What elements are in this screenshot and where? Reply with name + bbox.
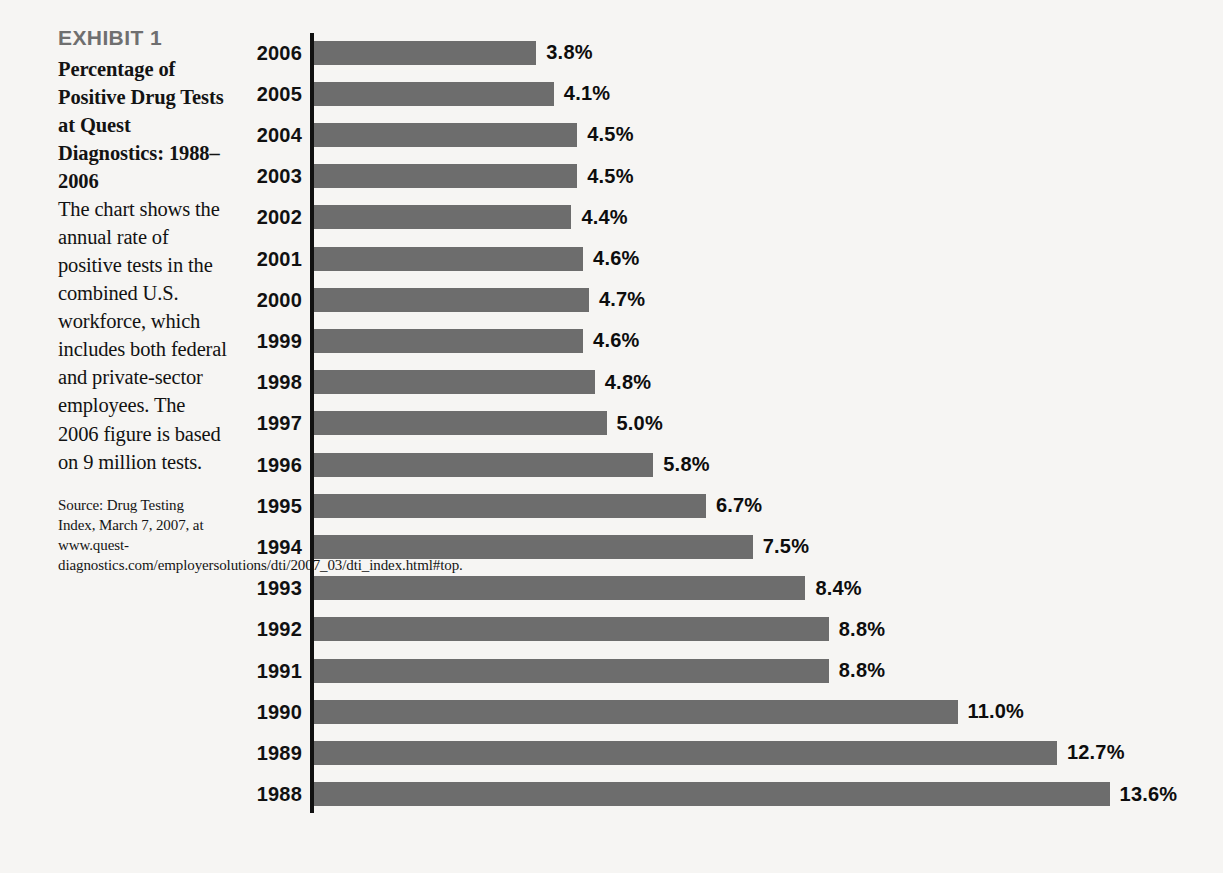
bar-year-label: 1989 <box>240 741 302 764</box>
bar-value-label: 11.0% <box>968 700 1025 723</box>
bar-fill <box>314 123 577 147</box>
bar-value-label: 5.0% <box>617 412 663 435</box>
exhibit-page: EXHIBIT 1 Percentage of Positive Drug Te… <box>0 0 1223 873</box>
bar-year-label: 1991 <box>240 659 302 682</box>
bar-track: 5.8% <box>314 453 710 477</box>
bar-fill <box>314 535 753 559</box>
bar-fill <box>314 288 589 312</box>
bar-fill <box>314 329 583 353</box>
bar-fill <box>314 576 805 600</box>
bar-fill <box>314 164 577 188</box>
bar-fill <box>314 782 1110 806</box>
bar-chart: 20063.8%20054.1%20044.5%20034.5%20024.4%… <box>240 26 1200 826</box>
bar-fill <box>314 494 706 518</box>
bar-year-label: 1999 <box>240 329 302 352</box>
bar-value-label: 4.1% <box>564 82 610 105</box>
bar-value-label: 4.6% <box>593 247 639 270</box>
bar-row: 19956.7% <box>240 485 1200 526</box>
bar-row: 19938.4% <box>240 568 1200 609</box>
bar-track: 4.6% <box>314 247 639 271</box>
bar-value-label: 5.8% <box>663 453 709 476</box>
bar-value-label: 7.5% <box>763 535 809 558</box>
bar-year-label: 2000 <box>240 288 302 311</box>
bar-value-label: 4.4% <box>581 206 627 229</box>
bar-year-label: 1996 <box>240 453 302 476</box>
bar-row: 19994.6% <box>240 320 1200 361</box>
bar-row: 20024.4% <box>240 197 1200 238</box>
bar-row: 19965.8% <box>240 444 1200 485</box>
bar-row: 20014.6% <box>240 238 1200 279</box>
bar-fill <box>314 411 607 435</box>
bar-track: 6.7% <box>314 494 762 518</box>
bar-fill <box>314 205 571 229</box>
exhibit-body-text: The chart shows the annual rate of posit… <box>58 195 228 476</box>
exhibit-heading: Percentage of Positive Drug Tests at Que… <box>58 55 228 195</box>
bar-fill <box>314 41 536 65</box>
bar-fill <box>314 741 1057 765</box>
bar-year-label: 1994 <box>240 535 302 558</box>
bar-year-label: 2004 <box>240 123 302 146</box>
bar-track: 4.5% <box>314 123 634 147</box>
bar-track: 11.0% <box>314 700 1024 724</box>
bar-fill <box>314 247 583 271</box>
bar-value-label: 4.6% <box>593 329 639 352</box>
bar-track: 8.8% <box>314 659 885 683</box>
bar-fill <box>314 700 958 724</box>
bar-fill <box>314 659 829 683</box>
bar-track: 13.6% <box>314 782 1177 806</box>
bar-track: 5.0% <box>314 411 663 435</box>
bar-row: 199011.0% <box>240 691 1200 732</box>
bar-track: 4.7% <box>314 288 645 312</box>
bar-year-label: 1990 <box>240 700 302 723</box>
bar-year-label: 1998 <box>240 371 302 394</box>
bar-track: 4.4% <box>314 205 628 229</box>
bar-track: 8.4% <box>314 576 862 600</box>
bar-row: 198912.7% <box>240 732 1200 773</box>
bar-year-label: 2006 <box>240 41 302 64</box>
bar-value-label: 6.7% <box>716 494 762 517</box>
bar-row: 19975.0% <box>240 403 1200 444</box>
bar-track: 7.5% <box>314 535 809 559</box>
bar-fill <box>314 82 554 106</box>
bar-year-label: 1997 <box>240 412 302 435</box>
bar-value-label: 4.5% <box>587 123 633 146</box>
bar-track: 12.7% <box>314 741 1125 765</box>
exhibit-source-note: Source: Drug Testing Index, March 7, 200… <box>58 496 218 576</box>
bar-row: 20044.5% <box>240 114 1200 155</box>
bar-year-label: 1988 <box>240 783 302 806</box>
bar-track: 4.5% <box>314 164 634 188</box>
bar-year-label: 1993 <box>240 577 302 600</box>
bar-value-label: 8.8% <box>839 618 885 641</box>
bar-value-label: 13.6% <box>1120 783 1178 806</box>
bar-track: 8.8% <box>314 617 885 641</box>
bar-row: 19928.8% <box>240 609 1200 650</box>
bar-fill <box>314 370 595 394</box>
caption-column: EXHIBIT 1 Percentage of Positive Drug Te… <box>58 26 228 575</box>
bar-row: 19918.8% <box>240 650 1200 691</box>
bar-fill <box>314 453 653 477</box>
bar-value-label: 3.8% <box>546 41 592 64</box>
bar-value-label: 4.7% <box>599 288 645 311</box>
bar-year-label: 1992 <box>240 618 302 641</box>
bar-row: 19947.5% <box>240 526 1200 567</box>
bar-year-label: 2005 <box>240 82 302 105</box>
bar-value-label: 4.8% <box>605 371 651 394</box>
bar-year-label: 2001 <box>240 247 302 270</box>
bar-track: 4.8% <box>314 370 651 394</box>
bar-row: 20063.8% <box>240 32 1200 73</box>
bar-row: 20004.7% <box>240 279 1200 320</box>
bar-value-label: 12.7% <box>1067 741 1125 764</box>
bar-track: 3.8% <box>314 41 593 65</box>
bar-track: 4.6% <box>314 329 639 353</box>
bar-year-label: 2003 <box>240 165 302 188</box>
bar-row: 19984.8% <box>240 362 1200 403</box>
bar-track: 4.1% <box>314 82 610 106</box>
bar-fill <box>314 617 829 641</box>
bar-row: 20034.5% <box>240 156 1200 197</box>
bar-row: 198813.6% <box>240 774 1200 815</box>
bar-row: 20054.1% <box>240 73 1200 114</box>
bar-year-label: 1995 <box>240 494 302 517</box>
bar-value-label: 4.5% <box>587 165 633 188</box>
bar-year-label: 2002 <box>240 206 302 229</box>
exhibit-label: EXHIBIT 1 <box>58 26 228 50</box>
